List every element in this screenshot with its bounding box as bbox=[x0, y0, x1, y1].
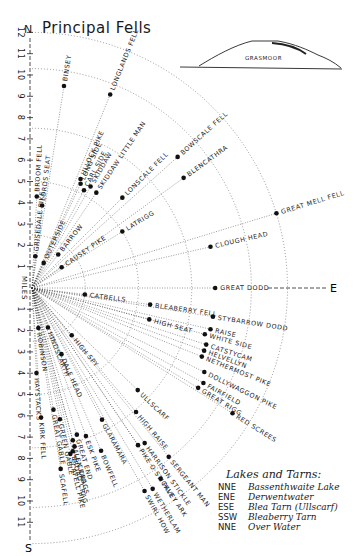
svg-text:3: 3 bbox=[16, 221, 25, 227]
fell-label: ROBINSON bbox=[35, 332, 49, 372]
fell-marker: LATRIGG bbox=[120, 209, 156, 234]
grasmoor-inset: GRASMOOR bbox=[180, 41, 342, 69]
fell-marker: LONSCALE FELL bbox=[120, 150, 170, 200]
svg-text:4: 4 bbox=[16, 200, 25, 206]
legend-item: NNEBassenthwaite Lake bbox=[218, 482, 340, 492]
fell-marker: HIGH SEAT bbox=[147, 317, 193, 335]
fell-label: DALE HEAD bbox=[60, 357, 85, 399]
fell-label: SCAFELL bbox=[57, 473, 70, 506]
svg-text:2: 2 bbox=[16, 243, 25, 249]
fell-label: BOWFELL bbox=[99, 454, 120, 489]
fell-label: BINSEY bbox=[61, 54, 73, 82]
fell-label: KIRK FELL bbox=[37, 422, 48, 459]
svg-text:5: 5 bbox=[16, 179, 25, 185]
svg-text:8: 8 bbox=[16, 115, 25, 121]
svg-text:12: 12 bbox=[16, 27, 25, 38]
fell-label: CLOUGH HEAD bbox=[215, 230, 269, 250]
svg-text:6: 6 bbox=[16, 413, 25, 419]
legend-item: ENEDerwentwater bbox=[218, 492, 340, 502]
svg-text:1: 1 bbox=[16, 264, 25, 270]
fell-label: HAYSTACKS bbox=[32, 378, 42, 421]
fell-marker: GRISEDALE PIKE bbox=[32, 191, 46, 259]
fell-marker: LONGLANDS FELL bbox=[108, 28, 141, 97]
legend-item: SSWBleaberry Tarn bbox=[218, 512, 340, 522]
fell-label: CATBELLS bbox=[89, 291, 126, 303]
fell-label: LATRIGG bbox=[125, 209, 156, 233]
fell-marker: HAYSTACKS bbox=[32, 371, 42, 421]
fell-marker: KIRK FELL bbox=[37, 415, 48, 459]
svg-text:5: 5 bbox=[16, 392, 25, 398]
svg-text:9: 9 bbox=[16, 477, 25, 483]
svg-text:7: 7 bbox=[16, 434, 25, 440]
svg-text:6: 6 bbox=[16, 157, 25, 163]
fell-marker: CLOUGH HEAD bbox=[208, 230, 269, 250]
east-label: E bbox=[330, 282, 337, 295]
fell-marker: BLEABERRY FELL bbox=[148, 302, 218, 319]
svg-text:10: 10 bbox=[16, 495, 25, 506]
fell-label: RED SCREES bbox=[234, 413, 278, 444]
lakes-legend: Lakes and Tarns: NNEBassenthwaite Lake E… bbox=[218, 470, 340, 532]
fell-label: GREAT MELL FELL bbox=[280, 189, 345, 216]
svg-text:7: 7 bbox=[16, 136, 25, 142]
fell-label: GRISEDALE PIKE bbox=[32, 191, 46, 252]
fell-marker: BINSEY bbox=[61, 54, 73, 88]
fell-label: BLEABERRY FELL bbox=[154, 302, 217, 319]
fell-marker: RED SCREES bbox=[230, 411, 278, 444]
svg-text:9: 9 bbox=[16, 93, 25, 99]
svg-text:11: 11 bbox=[16, 48, 25, 59]
fell-marker: GREAT MELL FELL bbox=[274, 189, 345, 216]
legend-item: ESEBlea Tarn (Ullscarf) bbox=[218, 502, 340, 512]
fell-label: HIGH SEAT bbox=[153, 317, 193, 335]
legend-item: NNEOver Water bbox=[218, 522, 340, 532]
fell-label: LONGLANDS FELL bbox=[109, 28, 141, 91]
fell-marker: CATBELLS bbox=[83, 291, 127, 303]
svg-text:11: 11 bbox=[16, 517, 25, 528]
svg-text:2: 2 bbox=[16, 328, 25, 334]
svg-text:8: 8 bbox=[16, 456, 25, 462]
fell-label: LONSCALE FELL bbox=[123, 150, 170, 197]
legend-heading: Lakes and Tarns: bbox=[226, 470, 340, 480]
svg-text:4: 4 bbox=[16, 370, 25, 376]
svg-text:1: 1 bbox=[16, 306, 25, 312]
svg-text:MILES: MILES bbox=[20, 276, 28, 300]
fell-label: GREAT DODD bbox=[220, 284, 269, 292]
fell-label: OUTERSIDE bbox=[42, 218, 67, 260]
mile-ticks: 1234567891011121234567891011MILES bbox=[16, 27, 33, 528]
fell-points: BINSEYLONGLANDS FELLBROOM FELLLORDS SEAT… bbox=[32, 28, 345, 536]
svg-text:3: 3 bbox=[16, 349, 25, 355]
svg-text:10: 10 bbox=[16, 69, 25, 80]
fell-marker: GREAT DODD bbox=[213, 284, 269, 292]
grasmoor-label: GRASMOOR bbox=[245, 55, 282, 61]
south-label: S bbox=[25, 542, 32, 555]
